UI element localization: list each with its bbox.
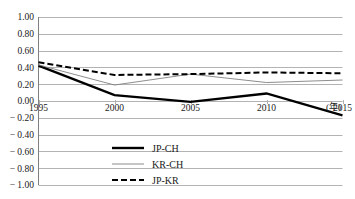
x-axis-tick-label: 2005 (181, 103, 200, 113)
y-axis-tick-label: 0.40 (17, 63, 34, 73)
y-axis-tick-label: − 0.60 (10, 147, 35, 157)
legend-label-jp-ch: JP-CH (152, 143, 179, 154)
y-axis-tick-label: 0.80 (17, 29, 34, 39)
line-chart: 1.000.800.600.400.200.00− 0.20− 0.40− 0.… (0, 0, 355, 199)
y-axis-tick-label: − 0.40 (10, 130, 35, 140)
chart-canvas: 1.000.800.600.400.200.00− 0.20− 0.40− 0.… (0, 0, 355, 199)
x-axis-unit-label: (年) (326, 101, 341, 112)
y-axis-tick-label: − 1.00 (10, 180, 35, 190)
y-axis-tick-label: 0.60 (17, 46, 34, 56)
legend-label-jp-kr: JP-KR (152, 175, 179, 186)
y-axis-tick-label: 1.00 (17, 12, 34, 22)
y-axis-tick-label: 0.20 (17, 80, 34, 90)
y-axis-tick-label: − 0.80 (10, 164, 35, 174)
y-axis-tick-label: − 0.20 (10, 113, 35, 123)
x-axis-tick-label: 2010 (257, 103, 276, 113)
x-axis-tick-label: 2000 (105, 103, 124, 113)
legend-label-kr-ch: KR-CH (152, 159, 183, 170)
